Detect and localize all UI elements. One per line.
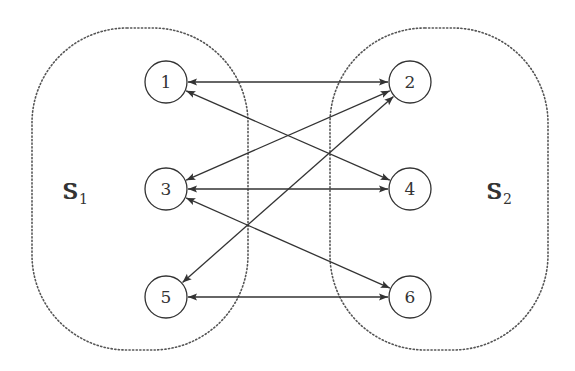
node-label: 4 — [405, 179, 416, 199]
set-label-doublestrike: S — [488, 179, 503, 204]
node-3: 3 — [145, 168, 187, 210]
set-label-subscript: 2 — [503, 191, 512, 207]
set-label-doublestrike: S — [64, 179, 79, 204]
node-5: 5 — [145, 276, 187, 318]
node-label: 1 — [161, 72, 172, 92]
edge-3-6 — [186, 198, 390, 288]
node-label: 6 — [405, 287, 416, 307]
bipartite-diagram: SS1SS2 123456 — [0, 0, 575, 371]
set-label-subscript: 1 — [79, 191, 88, 207]
edges-layer — [183, 82, 394, 297]
node-6: 6 — [389, 276, 431, 318]
node-label: 3 — [161, 179, 172, 199]
node-4: 4 — [389, 168, 431, 210]
node-label: 2 — [405, 72, 416, 92]
node-label: 5 — [161, 287, 172, 307]
node-1: 1 — [145, 61, 187, 103]
node-2: 2 — [389, 61, 431, 103]
